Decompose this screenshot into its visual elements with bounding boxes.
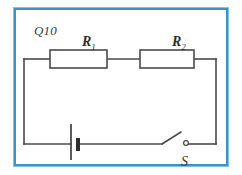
switch-blade[interactable]	[162, 132, 181, 144]
circuit-figure: Q10 R1 R2 S	[0, 0, 242, 175]
question-number-label: Q10	[34, 24, 57, 37]
switch-terminal-contact	[184, 141, 189, 146]
resistor-r2-body	[140, 50, 194, 68]
resistor-r2-subscript: 2	[181, 42, 186, 52]
resistor-r2-symbol: R	[172, 34, 181, 49]
switch-label: S	[181, 155, 188, 169]
resistor-r1-symbol: R	[82, 34, 91, 49]
resistor-r1-body	[50, 50, 107, 68]
resistor-r1-label: R1	[82, 35, 96, 52]
resistor-r1-subscript: 1	[91, 42, 96, 52]
resistor-r2-label: R2	[172, 35, 186, 52]
figure-border: Q10 R1 R2 S	[14, 8, 228, 166]
